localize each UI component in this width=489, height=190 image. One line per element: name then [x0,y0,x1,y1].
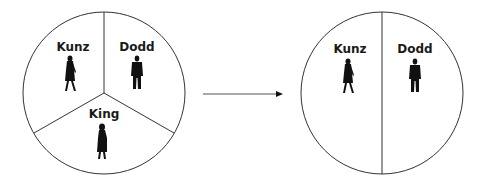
man-standing-icon [131,56,143,90]
woman-standing-icon [97,124,107,160]
diagram-canvas: Kunz Dodd King Kunz [0,0,489,190]
woman-walking-icon [65,56,76,92]
segment-label-dodd: Dodd [119,40,154,54]
pie-three-segments: Kunz Dodd King [23,12,185,174]
pie-two-segments: Kunz Dodd [301,12,463,174]
segment-label-kunz: Kunz [333,42,366,56]
woman-walking-icon [343,59,354,94]
segment-label-dodd: Dodd [397,42,432,56]
segment-label-king: King [89,107,120,121]
transition-arrow [203,91,283,97]
segment-label-kunz: Kunz [56,40,89,54]
arrowhead-icon [276,91,283,97]
man-standing-icon [409,59,421,93]
